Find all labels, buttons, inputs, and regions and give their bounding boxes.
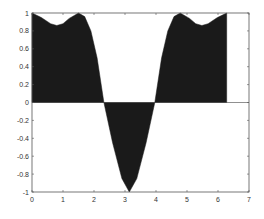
x-tick-label: 3 [123,196,127,203]
y-tick-label: 0 [25,99,29,106]
x-tick-label: 7 [247,196,251,203]
x-tick-label: 1 [61,196,65,203]
x-tick-label: 6 [216,196,220,203]
y-tick-label: 0.4 [19,63,29,70]
y-tick-label: -0.2 [17,117,29,124]
y-tick-label: 1 [25,10,29,17]
y-tick-label: 0.2 [19,81,29,88]
y-tick-label: 0.6 [19,45,29,52]
y-tick-label: 0.8 [19,27,29,34]
x-tick-label: 5 [185,196,189,203]
y-tick-label: -1 [23,189,29,196]
y-tick-label: -0.6 [17,153,29,160]
x-tick-label: 4 [154,196,158,203]
y-tick-label: -0.4 [17,135,29,142]
x-tick-label: 0 [30,196,34,203]
x-tick-label: 2 [92,196,96,203]
y-tick-label: -0.8 [17,171,29,178]
chart: 01234567 -1-0.8-0.6-0.4-0.200.20.40.60.8… [0,0,264,219]
